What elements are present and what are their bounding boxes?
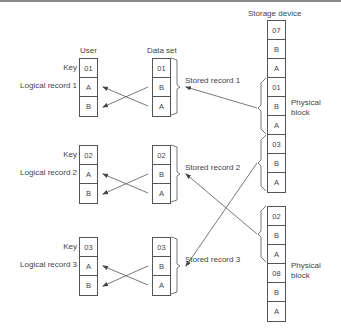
brace-physical-record-03 <box>258 135 266 191</box>
arrow-storage-01-to-stored-record-1 <box>186 87 257 108</box>
brace-physical-record-01 <box>258 78 266 134</box>
brace-stored-record-3 <box>171 237 180 294</box>
arrow-storage-02-to-stored-record-2 <box>186 174 257 234</box>
brace-stored-record-2 <box>171 145 180 202</box>
brace-physical-record-02 <box>258 206 266 262</box>
brace-stored-record-1 <box>171 58 180 115</box>
arrow-storage-03-to-stored-record-3 <box>186 163 257 266</box>
connector-overlay <box>0 0 341 332</box>
